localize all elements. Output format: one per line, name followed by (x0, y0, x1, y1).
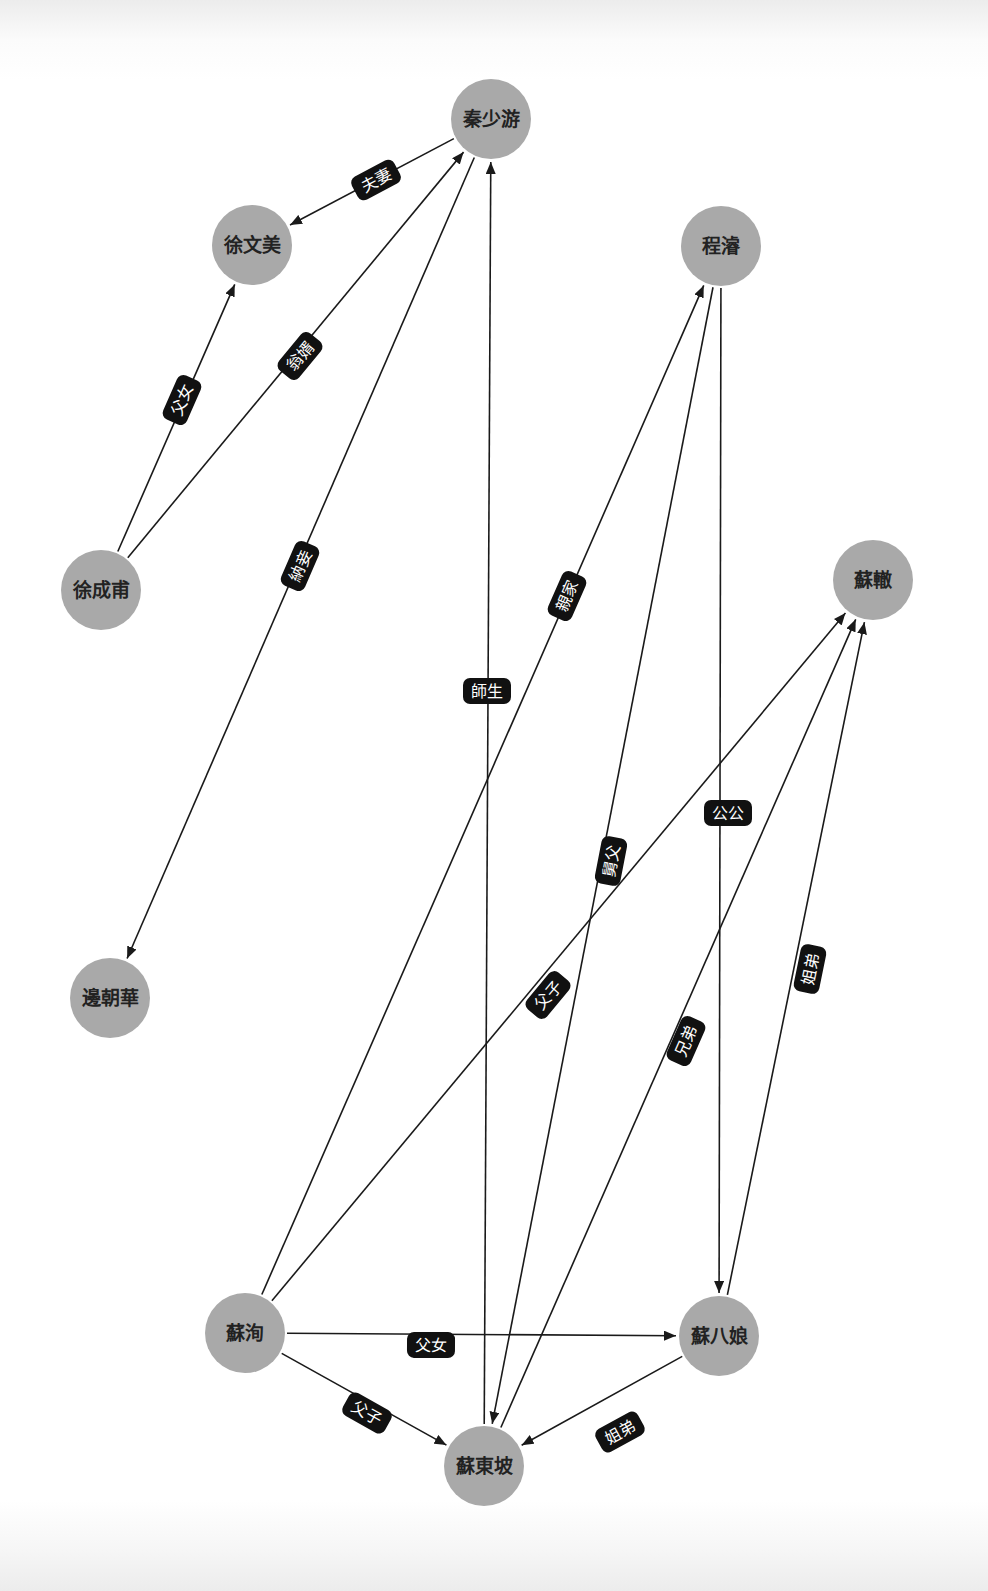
edge-label: 父子 (340, 1390, 395, 1436)
edge-label: 姐弟 (593, 1409, 648, 1455)
node-label: 邊朝華 (82, 987, 139, 1009)
edge-labels-layer: 夫妻父女翁婿納妾師生親家舅父公公父子兄弟姐弟父女父子姐弟 (160, 157, 827, 1455)
node-su_zhe[interactable]: 蘇轍 (833, 540, 913, 620)
edge-label-text: 公公 (712, 804, 744, 823)
edge-label: 納妾 (279, 539, 322, 593)
node-label: 徐成甫 (72, 579, 130, 601)
node-label: 蘇八娘 (690, 1325, 749, 1347)
edge-label: 父子 (523, 968, 574, 1022)
node-xu_wenmei[interactable]: 徐文美 (212, 205, 292, 285)
edge-su_dongpo-to-qin_shaoyou[interactable] (484, 162, 491, 1424)
node-label: 蘇東坡 (455, 1455, 514, 1477)
edge-label-text: 師生 (471, 682, 503, 701)
edge-su_xun-to-cheng_jun[interactable] (262, 285, 704, 1294)
edge-label-text: 父女 (415, 1336, 447, 1355)
edge-label: 父女 (407, 1332, 455, 1358)
edge-label: 師生 (463, 678, 511, 704)
edge-label: 親家 (545, 569, 588, 623)
relationship-graph: 夫妻父女翁婿納妾師生親家舅父公公父子兄弟姐弟父女父子姐弟 秦少游徐文美程濬徐成甫… (0, 0, 988, 1591)
edge-label: 夫妻 (349, 157, 404, 202)
node-label: 蘇轍 (853, 569, 893, 591)
node-qin_shaoyou[interactable]: 秦少游 (451, 79, 531, 159)
node-su_xun[interactable]: 蘇洵 (205, 1293, 285, 1373)
edge-su_xun-to-su_baniang[interactable] (287, 1333, 676, 1335)
node-cheng_jun[interactable]: 程濬 (681, 206, 761, 286)
node-label: 蘇洵 (225, 1322, 264, 1344)
edge-cheng_jun-to-su_baniang[interactable] (719, 288, 721, 1293)
edge-label: 公公 (704, 800, 752, 826)
node-su_dongpo[interactable]: 蘇東坡 (444, 1426, 524, 1506)
node-bian_chaohua[interactable]: 邊朝華 (70, 958, 150, 1038)
edge-su_dongpo-to-su_zhe[interactable] (501, 619, 856, 1427)
node-xu_chengfu[interactable]: 徐成甫 (61, 550, 141, 630)
edges-layer (118, 139, 865, 1446)
node-label: 徐文美 (223, 234, 282, 256)
edge-su_baniang-to-su_zhe[interactable] (727, 622, 864, 1295)
edge-su_xun-to-su_zhe[interactable] (272, 613, 846, 1301)
node-label: 程濬 (702, 235, 741, 257)
edge-label: 父女 (160, 373, 203, 427)
edge-label: 翁婿 (275, 329, 326, 383)
node-su_baniang[interactable]: 蘇八娘 (679, 1296, 759, 1376)
node-label: 秦少游 (462, 108, 520, 130)
